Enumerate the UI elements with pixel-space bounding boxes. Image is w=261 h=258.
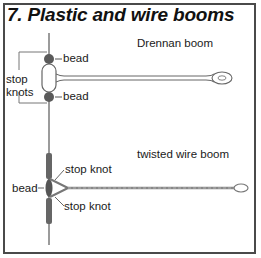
label-stop-knot-top: stop knot [65, 163, 112, 176]
label-twisted-wire-boom: twisted wire boom [137, 148, 229, 161]
bead-icon [46, 179, 53, 197]
label-drennan-boom: Drennan boom [137, 37, 213, 50]
label-bead-bottom: bead [63, 90, 89, 103]
wire-loop [234, 184, 248, 192]
sleeve-bottom [46, 198, 52, 224]
bead-icon [44, 92, 54, 102]
boom-tube [42, 64, 56, 92]
label-stop-knot-bottom: stop knot [64, 200, 111, 213]
booms-illustration [0, 0, 261, 258]
label-bead-top: bead [63, 52, 89, 65]
sleeve-top [46, 153, 52, 179]
label-bead-twisted: bead [12, 182, 38, 195]
label-stop-knots: stop knots [6, 73, 34, 99]
bead-icon [44, 54, 54, 64]
drennan-boom [19, 52, 232, 103]
